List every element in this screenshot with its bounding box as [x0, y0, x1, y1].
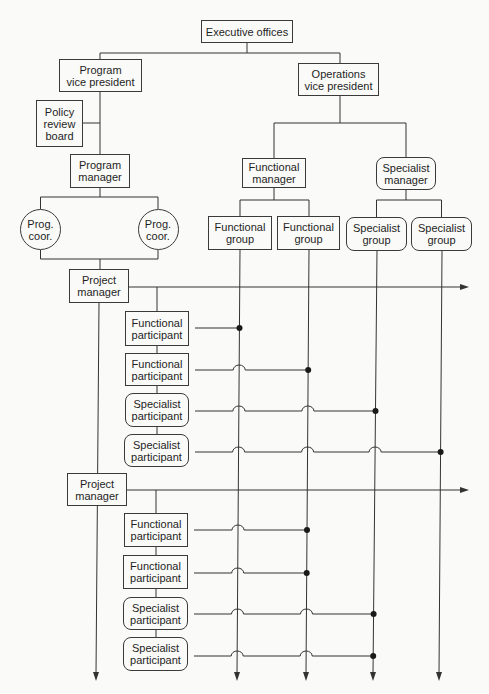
node-specialist-manager: Specialist manager — [376, 157, 436, 190]
functional-group-2-line — [306, 250, 309, 674]
node-functional-participant: Functional participant — [125, 353, 189, 386]
node-label: group — [362, 234, 390, 246]
node-functional-manager: Functional manager — [242, 158, 306, 188]
node-label: Prog. — [145, 218, 171, 230]
node-functional-participant: Functional participant — [125, 311, 189, 346]
node-label: board — [45, 130, 73, 142]
junction-dot — [237, 325, 243, 331]
node-label: Functional — [131, 518, 182, 530]
node-specialist-participant: Specialist participant — [123, 597, 188, 630]
node-label: Functional — [283, 221, 334, 233]
node-label: manager — [384, 174, 427, 186]
junction-dot — [373, 408, 379, 414]
node-program-coordinator-right: Prog. coor. — [138, 209, 179, 250]
node-label: participant — [132, 370, 183, 382]
node-label: manager — [78, 171, 121, 183]
node-label: vice president — [67, 76, 135, 88]
node-label: Functional — [215, 221, 266, 233]
node-label: Functional — [132, 317, 183, 329]
node-program-vice-president: Program vice president — [59, 59, 142, 92]
arrow-down-icon — [93, 672, 99, 681]
node-label: group — [427, 234, 455, 246]
junction-dot — [371, 611, 377, 617]
arrow-down-icon — [370, 672, 376, 681]
node-specialist-participant: Specialist participant — [124, 434, 189, 467]
node-label: participant — [130, 654, 181, 666]
node-label: participant — [132, 410, 183, 422]
node-specialist-participant: Specialist participant — [123, 637, 188, 671]
node-label: Specialist — [133, 398, 180, 410]
node-label: manager — [77, 286, 120, 298]
node-label: Specialist — [132, 602, 179, 614]
specialist-group-1-line — [373, 251, 377, 674]
node-label: review — [44, 118, 76, 130]
functional-group-1-line — [237, 250, 240, 674]
node-label: participant — [131, 530, 182, 542]
arrow-down-icon — [234, 672, 240, 681]
specialist-group-2-line — [439, 251, 442, 674]
node-program-coordinator-left: Prog. coor. — [20, 209, 61, 250]
node-label: Specialist — [353, 222, 400, 234]
node-operations-vice-president: Operations vice president — [298, 63, 379, 96]
node-label: Executive offices — [206, 26, 288, 38]
node-label: manager — [75, 490, 118, 502]
node-functional-participant: Functional participant — [123, 555, 188, 589]
node-project-manager-2: Project manager — [67, 473, 127, 506]
node-functional-group-1: Functional group — [208, 216, 272, 250]
node-label: participant — [130, 614, 181, 626]
node-label: Functional — [132, 358, 183, 370]
arrow-down-icon — [436, 672, 442, 681]
node-label: Project — [82, 274, 116, 286]
node-label: Program — [79, 64, 121, 76]
junction-dot — [304, 570, 310, 576]
node-label: group — [294, 233, 322, 245]
node-label: Prog. — [27, 218, 53, 230]
node-specialist-group-1: Specialist group — [346, 217, 407, 251]
node-label: Specialist — [418, 222, 465, 234]
node-label: Specialist — [132, 642, 179, 654]
node-label: Specialist — [133, 439, 180, 451]
node-label: Functional — [249, 161, 300, 173]
node-label: Functional — [130, 560, 181, 572]
node-label: Program — [79, 159, 121, 171]
node-label: Operations — [312, 68, 366, 80]
node-label: Specialist — [382, 162, 429, 174]
node-functional-group-2: Functional group — [277, 216, 340, 250]
node-executive-offices: Executive offices — [201, 20, 293, 43]
junction-dot — [305, 367, 311, 373]
junction-dot — [304, 527, 310, 533]
node-program-manager: Program manager — [70, 154, 130, 188]
node-label: coor. — [146, 230, 170, 242]
node-label: group — [226, 233, 254, 245]
matrix-organization-chart: Executive offices Program vice president… — [0, 0, 489, 694]
node-functional-participant: Functional participant — [124, 513, 188, 547]
node-label: participant — [130, 572, 181, 584]
arrow-right-icon — [460, 487, 469, 493]
node-project-manager-1: Project manager — [69, 269, 129, 303]
node-specialist-participant: Specialist participant — [125, 393, 189, 427]
node-label: Project — [80, 478, 114, 490]
node-label: vice president — [305, 80, 373, 92]
node-specialist-group-2: Specialist group — [411, 217, 472, 251]
node-label: coor. — [29, 230, 53, 242]
arrow-down-icon — [303, 672, 309, 681]
junction-dot — [370, 653, 376, 659]
node-label: Policy — [45, 106, 74, 118]
junction-dot — [438, 449, 444, 455]
arrow-right-icon — [460, 284, 469, 290]
node-label: manager — [252, 173, 295, 185]
node-label: participant — [132, 329, 183, 341]
node-policy-review-board: Policy review board — [36, 100, 83, 147]
node-label: participant — [131, 451, 182, 463]
